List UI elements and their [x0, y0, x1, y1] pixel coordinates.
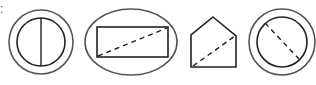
- shape-circle-solid-diameter: [9, 10, 73, 74]
- inner-circle: [257, 17, 307, 67]
- outer-ring: [249, 9, 315, 75]
- pentagon: [191, 17, 236, 67]
- shape-rectangle-in-ellipse: [85, 9, 177, 75]
- shape-circle-dashed-diameter: [249, 9, 315, 75]
- shape-house-pentagon: [191, 17, 236, 67]
- dashed-diagonal: [193, 36, 235, 66]
- dashed-diameter: [265, 23, 299, 59]
- dashed-diagonal: [98, 28, 167, 56]
- shapes-diagram: [0, 0, 316, 85]
- outer-ellipse: [85, 9, 177, 75]
